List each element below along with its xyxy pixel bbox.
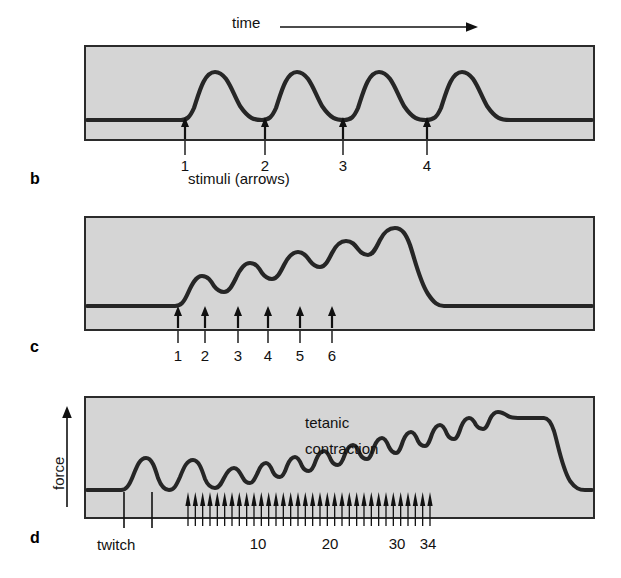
panel-c-stimulus-numbers: 1 2 3 4 5 6 [84, 344, 384, 368]
panel-d-tick-number: 10 [250, 535, 267, 552]
panel-b-stimulus-stems [185, 141, 427, 155]
panel-letter-d: d [30, 529, 40, 547]
panel-c-stimulus-number: 1 [174, 347, 182, 364]
panel-c-stimulus-number: 5 [296, 347, 304, 364]
panel-d-tick-number: 30 [389, 535, 406, 552]
panel-c-stimulus-number: 2 [201, 347, 209, 364]
panel-letter-c: c [30, 338, 39, 356]
panel-c-stimulus-number: 6 [328, 347, 336, 364]
time-arrow-icon [280, 20, 480, 34]
tetanic-label-line2: contraction [305, 440, 378, 457]
panel-c-chart [84, 216, 604, 346]
tetanic-label-line1: tetanic [305, 414, 349, 431]
panel-c-stimulus-number: 3 [234, 347, 242, 364]
panel-b-chart: 1 2 3 4 [84, 45, 604, 175]
muscle-contraction-figure: time 1 2 3 4 b stimuli (arrows) [0, 0, 621, 578]
panel-letter-b: b [30, 170, 40, 188]
force-axis-label: force [50, 457, 67, 490]
panel-d-tick-numbers: 10 20 30 34 [84, 531, 614, 557]
panel-b-stimulus-number: 4 [423, 157, 431, 174]
stimuli-caption: stimuli (arrows) [188, 170, 290, 187]
panel-d-tick-number: 34 [420, 535, 437, 552]
panel-b-stimulus-number: 3 [339, 157, 347, 174]
time-axis-label: time [232, 14, 260, 31]
panel-c-stimulus-stems [178, 331, 332, 343]
panel-c-background [85, 217, 594, 330]
panel-d-tick-number: 20 [322, 535, 339, 552]
panel-c-stimulus-number: 4 [264, 347, 272, 364]
